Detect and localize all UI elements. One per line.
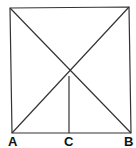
geometry-diagram: A C B: [0, 0, 136, 148]
diagonal-a-to-top-right: [12, 7, 129, 133]
label-b: B: [124, 134, 133, 148]
label-a: A: [8, 134, 18, 148]
label-c: C: [64, 134, 74, 148]
